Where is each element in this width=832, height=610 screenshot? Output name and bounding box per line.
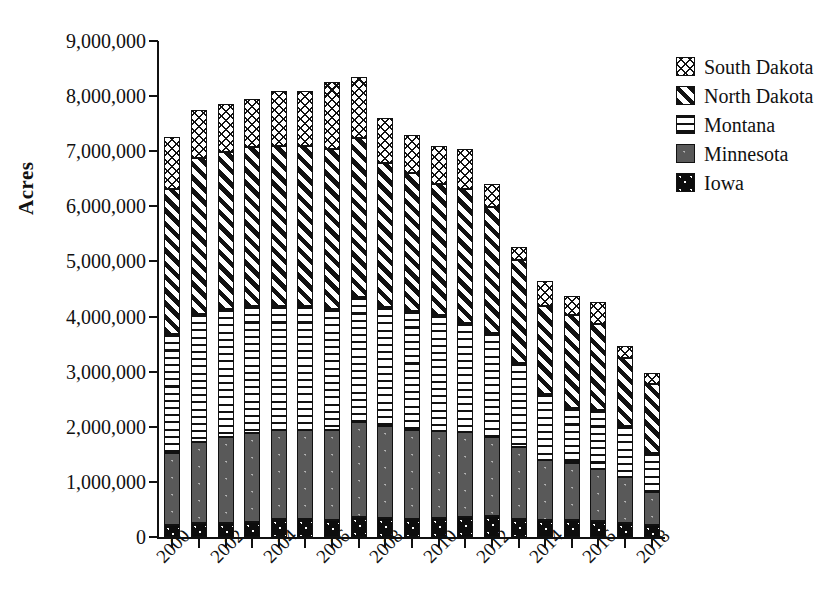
x-axis-tick	[491, 539, 493, 548]
chart-legend: South DakotaNorth DakotaMontanaMinnesota…	[676, 52, 832, 197]
x-tick-label-2008: 2008	[365, 525, 407, 567]
solid-black-swatch	[676, 173, 695, 192]
y-axis-tick	[149, 95, 158, 97]
x-axis-tick	[304, 539, 306, 548]
legend-item-minnesota[interactable]: Minnesota	[676, 139, 832, 168]
x-axis-tick	[624, 539, 626, 548]
x-tick-label-2010: 2010	[419, 525, 461, 567]
y-axis-tick	[149, 205, 158, 207]
legend-label: North Dakota	[704, 86, 813, 106]
y-axis-tick	[149, 150, 158, 152]
legend-label: Montana	[704, 115, 775, 135]
x-tick-label-2012: 2012	[472, 525, 514, 567]
x-axis-tick	[278, 539, 280, 548]
y-axis-tick	[149, 40, 158, 42]
x-tick-label-2006: 2006	[312, 525, 354, 567]
x-axis-tick	[198, 539, 200, 548]
legend-label: Minnesota	[704, 144, 788, 164]
y-axis-tick	[149, 316, 158, 318]
legend-item-iowa[interactable]: Iowa	[676, 168, 832, 197]
x-axis-tick	[518, 539, 520, 548]
x-axis-tick	[331, 539, 333, 548]
x-axis-tick	[411, 539, 413, 548]
y-axis-tick	[149, 371, 158, 373]
y-axis-tick	[149, 426, 158, 428]
x-tick-label-2002: 2002	[206, 525, 248, 567]
y-axis-tick	[149, 536, 158, 538]
x-axis-tick	[651, 539, 653, 548]
x-tick-label-2000: 2000	[152, 525, 194, 567]
cross-hatch-swatch	[676, 57, 695, 76]
y-axis-tick	[149, 481, 158, 483]
x-tick-label-2004: 2004	[259, 525, 301, 567]
x-axis-tick	[171, 539, 173, 548]
x-axis-tick	[384, 539, 386, 548]
x-axis-tick	[597, 539, 599, 548]
x-axis-tick	[464, 539, 466, 548]
x-axis-tick	[358, 539, 360, 548]
legend-item-south-dakota[interactable]: South Dakota	[676, 52, 832, 81]
x-tick-label-2014: 2014	[525, 525, 567, 567]
x-axis-tick	[544, 539, 546, 548]
diagonal-stripes-swatch	[676, 86, 695, 105]
x-tick-label-2016: 2016	[578, 525, 620, 567]
stacked-bar-chart: Acres 01,000,0002,000,0003,000,0004,000,…	[0, 0, 832, 610]
x-axis-tick	[251, 539, 253, 548]
x-axis-tick	[225, 539, 227, 548]
x-tick-label-2018: 2018	[632, 525, 674, 567]
x-axis-tick	[438, 539, 440, 548]
legend-item-montana[interactable]: Montana	[676, 110, 832, 139]
legend-label: South Dakota	[704, 57, 813, 77]
legend-label: Iowa	[704, 173, 744, 193]
horizontal-stripes-swatch	[676, 115, 695, 134]
x-axis-tick	[571, 539, 573, 548]
y-axis-tick	[149, 260, 158, 262]
solid-gray-swatch	[676, 144, 695, 163]
legend-item-north-dakota[interactable]: North Dakota	[676, 81, 832, 110]
